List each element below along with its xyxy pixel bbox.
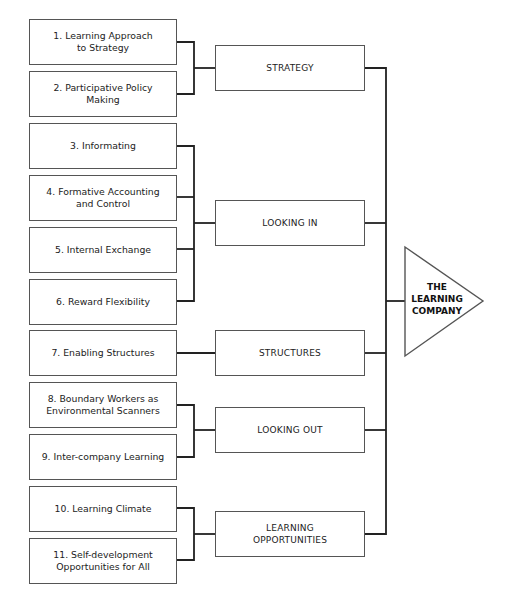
group-box-learning-opportunities: LEARNING OPPORTUNITIES [215, 511, 365, 557]
item-label: 2. Participative Policy Making [53, 82, 152, 106]
item-box-1: 1. Learning Approach to Strategy [29, 19, 177, 65]
item-box-9: 9. Inter-company Learning [29, 434, 177, 480]
item-label: 8. Boundary Workers as Environmental Sca… [46, 393, 159, 417]
group-box-looking-in: LOOKING IN [215, 200, 365, 246]
item-label: 10. Learning Climate [55, 503, 152, 515]
item-box-8: 8. Boundary Workers as Environmental Sca… [29, 382, 177, 428]
group-label: LOOKING IN [262, 217, 317, 229]
item-label: 3. Informating [70, 140, 136, 152]
item-label: 4. Formative Accounting and Control [46, 186, 159, 210]
item-box-2: 2. Participative Policy Making [29, 71, 177, 117]
item-label: 7. Enabling Structures [51, 347, 154, 359]
group-box-strategy: STRATEGY [215, 45, 365, 91]
item-label: 6. Reward Flexibility [56, 296, 150, 308]
learning-company-diagram: 1. Learning Approach to Strategy 2. Part… [0, 0, 508, 606]
group-label: STRATEGY [266, 62, 313, 74]
item-label: 1. Learning Approach to Strategy [53, 30, 152, 54]
item-box-10: 10. Learning Climate [29, 486, 177, 532]
group-box-looking-out: LOOKING OUT [215, 407, 365, 453]
item-label: 11. Self-development Opportunities for A… [53, 549, 152, 573]
item-label: 5. Internal Exchange [55, 244, 151, 256]
group-box-structures: STRUCTURES [215, 330, 365, 376]
item-box-6: 6. Reward Flexibility [29, 279, 177, 325]
item-box-7: 7. Enabling Structures [29, 330, 177, 376]
group-label: STRUCTURES [259, 347, 321, 359]
learning-company-label: THE LEARNING COMPANY [405, 281, 469, 317]
item-box-4: 4. Formative Accounting and Control [29, 175, 177, 221]
item-box-5: 5. Internal Exchange [29, 227, 177, 273]
item-label: 9. Inter-company Learning [42, 451, 165, 463]
group-label: LEARNING OPPORTUNITIES [253, 522, 327, 546]
item-box-11: 11. Self-development Opportunities for A… [29, 538, 177, 584]
group-label: LOOKING OUT [257, 424, 322, 436]
item-box-3: 3. Informating [29, 123, 177, 169]
